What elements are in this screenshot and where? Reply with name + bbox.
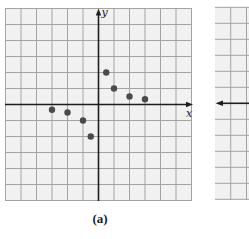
y-axis-label: y (101, 6, 109, 19)
data-point (111, 85, 117, 91)
figure: y x (0, 0, 249, 239)
data-point (142, 96, 148, 102)
data-point (126, 93, 132, 99)
x-axis-label: x (186, 107, 193, 120)
data-point (80, 117, 86, 123)
panel-b-plot (215, 7, 249, 200)
figure-caption: (a) (80, 211, 120, 227)
data-point (49, 107, 55, 113)
data-point (64, 109, 70, 115)
data-point (103, 69, 109, 75)
panel-a-plot: y x (5, 6, 193, 201)
data-point (88, 133, 94, 139)
